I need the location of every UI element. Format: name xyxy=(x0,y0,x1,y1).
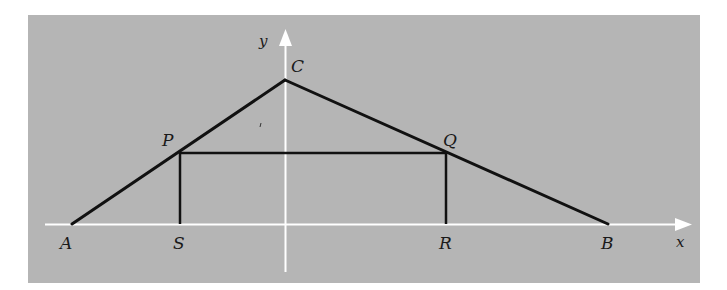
y-axis-label: y xyxy=(258,32,268,50)
label-a: A xyxy=(58,233,72,253)
x-axis-arrow-icon xyxy=(675,218,692,231)
label-q: Q xyxy=(443,130,457,150)
label-b: B xyxy=(600,233,614,253)
y-axis-arrow-icon xyxy=(279,29,292,46)
x-axis xyxy=(45,218,692,231)
label-p: P xyxy=(161,130,174,150)
x-axis-label: x xyxy=(676,233,685,251)
label-s: S xyxy=(173,233,185,253)
label-c: C xyxy=(291,56,304,76)
geometry-figure: y x C P Q A S R B xyxy=(0,0,727,290)
rectangle-pqrs xyxy=(180,153,446,224)
label-r: R xyxy=(438,233,452,253)
scan-speck xyxy=(260,123,261,127)
